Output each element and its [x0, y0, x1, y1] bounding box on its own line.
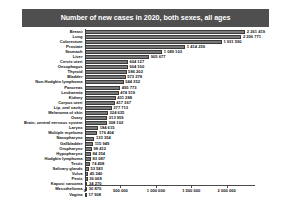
bar[interactable]	[85, 80, 124, 84]
bar-value-label: 1 931 590	[222, 40, 242, 44]
bar[interactable]	[85, 86, 120, 90]
bar-value-label: 905 677	[149, 55, 165, 59]
bar-value-label: 2 206 771	[241, 35, 261, 39]
bar-value-label: 133 354	[94, 136, 110, 140]
category-label: Non-Hodgkin lymphoma	[0, 80, 85, 84]
bar[interactable]	[85, 65, 128, 69]
bar[interactable]	[85, 116, 107, 120]
bar[interactable]	[85, 106, 112, 110]
x-axis: 0500 0001 000 0001 500 0002 000 000	[0, 185, 290, 211]
bar[interactable]	[85, 101, 115, 105]
bar[interactable]	[85, 126, 98, 130]
chart-title: Number of new cases in 2020, both sexes,…	[61, 14, 231, 21]
x-axis-tick-label: 500 000	[113, 189, 128, 193]
bar[interactable]	[85, 137, 94, 141]
bar[interactable]	[85, 70, 127, 74]
bar[interactable]	[85, 142, 93, 146]
category-label: Breast	[0, 30, 85, 34]
x-axis-tick-label: 1 500 000	[182, 189, 200, 193]
category-label: Nasopharynx	[0, 136, 85, 140]
x-axis-tick-label: 0	[84, 189, 86, 193]
bar[interactable]	[85, 30, 245, 34]
bar[interactable]	[85, 91, 119, 95]
x-axis-line	[85, 185, 255, 186]
bar[interactable]	[85, 96, 116, 100]
bar-chart: Number of new cases in 2020, both sexes,…	[0, 0, 290, 215]
plot-area: Breast2 261 419Lung2 206 771Colorectum1 …	[0, 29, 290, 185]
category-label: Pancreas	[0, 86, 85, 90]
bar[interactable]	[85, 75, 126, 79]
x-axis-tick-label: 1 000 000	[147, 189, 165, 193]
bar[interactable]	[85, 60, 128, 64]
bar-value-label: 1 414 259	[185, 45, 205, 49]
bar-value-label: 495 773	[120, 86, 136, 90]
chart-title-banner: Number of new cases in 2020, both sexes,…	[22, 9, 269, 27]
x-axis-tick-label: 2 000 000	[218, 189, 236, 193]
bar[interactable]	[85, 111, 108, 115]
bar[interactable]	[85, 147, 92, 151]
bar[interactable]	[85, 35, 241, 39]
bar-value-label: 544 352	[124, 80, 140, 84]
bar-value-label: 2 261 419	[245, 30, 265, 34]
